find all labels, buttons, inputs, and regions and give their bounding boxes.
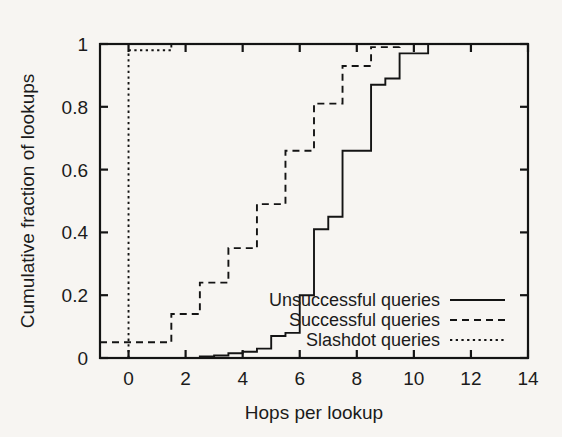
y-tick-label: 0.4 bbox=[62, 222, 89, 243]
legend-label: Slashdot queries bbox=[306, 330, 440, 350]
x-tick-label: 0 bbox=[123, 368, 134, 389]
x-tick-label: 14 bbox=[517, 368, 539, 389]
y-axis-title: Cumulative fraction of lookups bbox=[17, 74, 38, 329]
y-tick-label: 0.8 bbox=[62, 97, 88, 118]
y-tick-label: 0.6 bbox=[62, 160, 88, 181]
legend-label: Unsuccessful queries bbox=[269, 290, 440, 310]
y-tick-label-group: 00.20.40.60.81 bbox=[62, 34, 89, 369]
legend-label: Successful queries bbox=[289, 310, 440, 330]
chart-figure: 00.20.40.60.81 02468101214 Hops per look… bbox=[0, 0, 562, 437]
chart-legend: Unsuccessful queriesSuccessful queriesSl… bbox=[269, 290, 505, 350]
x-tick-label: 2 bbox=[180, 368, 191, 389]
y-tick-label: 1 bbox=[77, 34, 88, 55]
x-tick-label: 4 bbox=[237, 368, 248, 389]
x-tick-label-group: 02468101214 bbox=[123, 368, 539, 389]
x-tick-label: 12 bbox=[460, 368, 481, 389]
x-tick-label: 8 bbox=[352, 368, 363, 389]
y-tick-label: 0.2 bbox=[62, 285, 88, 306]
x-tick-label: 10 bbox=[403, 368, 424, 389]
cdf-plot: 00.20.40.60.81 02468101214 Hops per look… bbox=[0, 0, 562, 437]
x-axis-title: Hops per lookup bbox=[245, 402, 383, 423]
y-tick-label: 0 bbox=[77, 348, 88, 369]
x-tick-label: 6 bbox=[294, 368, 305, 389]
